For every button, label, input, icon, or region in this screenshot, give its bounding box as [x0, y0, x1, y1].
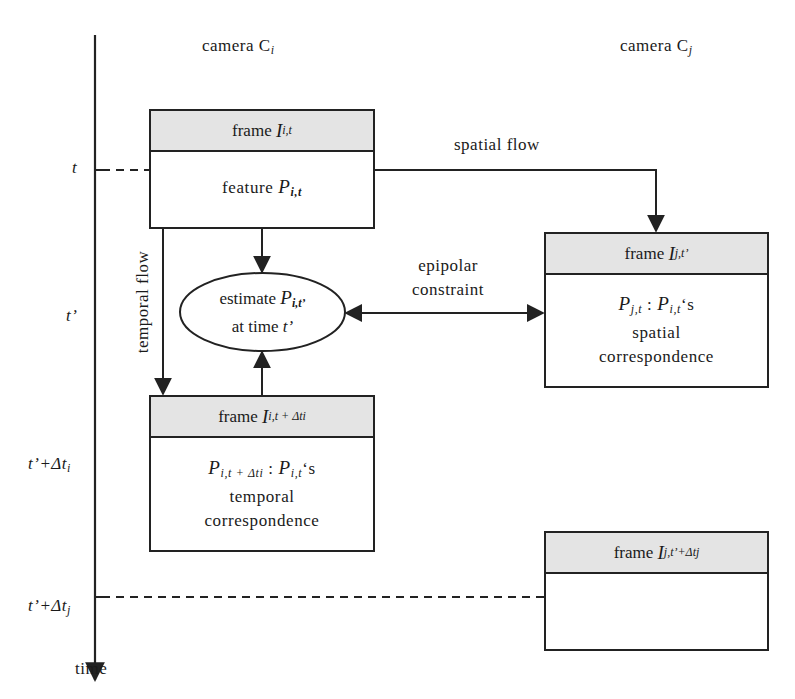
frame-i-t-dti-body: Pi,t + Δti : Pi,t‘s temporal corresponde…	[151, 438, 373, 550]
tick-label-t: t	[72, 158, 77, 178]
estimate-ellipse-text: estimate Pi,t’ at time t’	[180, 273, 345, 351]
epipolar-constraint-label: epipolar constraint	[383, 254, 513, 302]
frame-i-t-dti-header: frame Ii,t + Δti	[151, 397, 373, 438]
frame-i-t-body: feature Pi,t	[151, 152, 373, 227]
temporal-flow-label: temporal flow	[133, 242, 155, 362]
camera-ci-label: camera Ci	[202, 36, 275, 58]
frame-j-t-prime-body: Pj,t : Pi,t‘s spatial correspondence	[546, 275, 767, 386]
frame-i-t-dti-box: frame Ii,t + Δti Pi,t + Δti : Pi,t‘s tem…	[149, 395, 375, 552]
estimate-line: estimate Pi,t’	[219, 286, 305, 315]
at-time-line: at time t’	[232, 315, 293, 339]
frame-j-t-prime-dtj-header: frame Ij,t’+Δtj	[546, 533, 767, 574]
frame-i-t-header: frame Ii,t	[151, 111, 373, 152]
spatial-correspondence-formula: Pj,t : Pi,t‘s	[619, 292, 695, 321]
temporal-word: temporal	[229, 485, 294, 509]
camera-cj-label: camera Cj	[620, 36, 693, 58]
time-axis-label: time	[75, 659, 107, 679]
correspondence-word: correspondence	[599, 345, 714, 369]
frame-j-t-prime-box: frame Ij,t’ Pj,t : Pi,t‘s spatial corres…	[544, 232, 769, 388]
tick-label-t-prime: t’	[66, 306, 77, 326]
frame-j-t-prime-header: frame Ij,t’	[546, 234, 767, 275]
frame-j-t-prime-dtj-box: frame Ij,t’+Δtj	[544, 531, 769, 651]
spatial-flow-label: spatial flow	[454, 135, 540, 155]
spatial-word: spatial	[632, 321, 681, 345]
tick-label-t-prime-dti: t’+Δti	[28, 454, 71, 476]
temporal-correspondence-formula: Pi,t + Δti : Pi,t‘s	[208, 456, 315, 485]
frame-i-t-box: frame Ii,t feature Pi,t	[149, 109, 375, 229]
correspondence-word: correspondence	[204, 509, 319, 533]
feature-label: feature Pi,t	[222, 175, 302, 204]
tick-label-t-prime-dtj: t’+Δtj	[28, 596, 71, 618]
spatial-flow-arrow	[374, 170, 656, 231]
